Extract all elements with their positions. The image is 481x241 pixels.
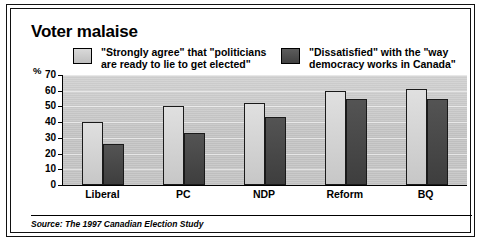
y-axis-tick-label: 50 [32,100,56,111]
x-axis-category-label: BQ [418,188,434,200]
y-axis-tick-label: 30 [32,132,56,143]
y-axis-tick-label: 40 [32,116,56,127]
legend-item-label: "Strongly agree" that "politicians are r… [101,47,266,70]
y-axis-tick-mark [58,138,62,139]
bar [406,89,427,185]
light-gray-swatch-icon [73,48,92,64]
y-axis-tick-mark [58,169,62,170]
bar [325,91,346,185]
plot-area [62,75,467,186]
figure-inner-border: Voter malaise "Strongly agree" that "pol… [10,8,471,233]
bar [103,144,124,185]
y-axis-tick-mark [58,122,62,123]
y-axis-tick-label: 60 [32,85,56,96]
x-axis-category-label: Reform [326,188,363,200]
x-axis-category-label: Liberal [85,188,119,200]
gridline [63,75,467,76]
legend-item-strongly-agree: "Strongly agree" that "politicians are r… [73,47,266,70]
dark-gray-swatch-icon [281,48,300,64]
x-axis-category-labels: LiberalPCNDPReformBQ [62,188,466,202]
bar [244,103,265,185]
y-axis-tick-labels: 010203040506070 [31,75,56,185]
chart-legend: "Strongly agree" that "politicians are r… [73,47,473,73]
voter-malaise-figure: Voter malaise "Strongly agree" that "pol… [0,0,481,241]
bar [82,122,103,185]
bar [184,133,205,185]
y-axis-tick-mark [58,154,62,155]
source-divider [31,215,472,216]
y-axis-tick-mark [58,185,62,186]
bar [163,106,184,185]
y-axis-tick-mark [58,106,62,107]
bar [265,117,286,185]
y-axis-tick-mark [58,75,62,76]
legend-item-dissatisfied: "Dissatisfied" with the "way democracy w… [281,47,456,70]
y-axis-tick-label: 20 [32,148,56,159]
y-axis-tick-mark [58,91,62,92]
y-axis-tick-label: 10 [32,163,56,174]
page-title: Voter malaise [31,22,138,42]
bar [346,99,367,185]
legend-item-label: "Dissatisfied" with the "way democracy w… [309,47,456,70]
bar [427,99,448,185]
x-axis-category-label: NDP [253,188,275,200]
plot-container: % 010203040506070 LiberalPCNDPReformBQ [31,75,471,203]
source-note: Source: The 1997 Canadian Election Study [31,219,203,229]
x-axis-category-label: PC [176,188,191,200]
y-axis-tick-label: 0 [32,179,56,190]
y-axis-tick-label: 70 [32,69,56,80]
